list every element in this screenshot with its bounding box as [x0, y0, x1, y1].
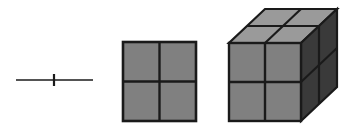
- square-figure: [123, 42, 196, 121]
- segment-figure: [16, 74, 93, 86]
- figure-canvas: [0, 0, 352, 128]
- dimensional-subdivision-diagram: [0, 0, 352, 128]
- cube-figure: [229, 9, 337, 121]
